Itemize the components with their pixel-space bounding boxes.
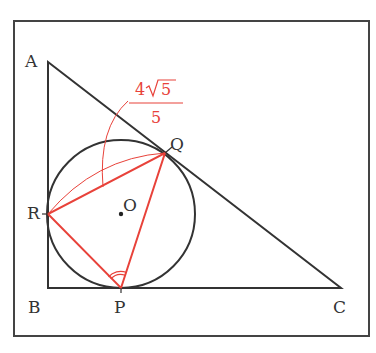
numerator-rad: 5 [161,80,171,99]
label-c: C [333,297,346,317]
label-a: A [24,51,38,71]
length-annotation: 4 5 5 [129,80,183,127]
angle-mark-inner [111,274,125,278]
triangle-pqr [48,153,165,288]
denominator: 5 [151,108,161,127]
geometry-figure: A B C P Q R O 4 5 5 [0,0,376,353]
numerator-coef: 4 [135,80,145,99]
label-o: O [123,195,137,215]
label-p: P [114,297,125,317]
triangle-abc [48,62,341,288]
label-q: Q [170,134,184,154]
label-b: B [28,297,41,317]
label-r: R [27,203,41,223]
